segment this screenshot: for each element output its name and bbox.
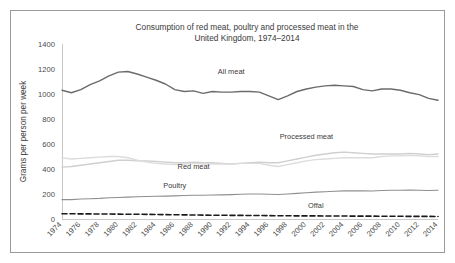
x-tick-label: 2000 — [289, 220, 307, 238]
x-tick-label: 2012 — [402, 220, 420, 238]
x-tick-label: 1986 — [158, 220, 176, 238]
x-tick-label: 1996 — [252, 220, 270, 238]
y-tick-label: 400 — [42, 165, 55, 174]
x-tick-label: 1976 — [64, 220, 82, 238]
chart-figure: Consumption of red meat, poultry and pro… — [0, 0, 455, 263]
y-tick-label: 1400 — [38, 40, 55, 49]
y-tick-label: 800 — [42, 115, 55, 124]
x-tick-label: 1998 — [271, 220, 289, 238]
y-tick-label: 600 — [42, 140, 55, 149]
x-tick-label: 1982 — [120, 220, 138, 238]
series-line-offal — [62, 214, 438, 217]
series-lines — [62, 72, 438, 217]
x-tick-label: 1994 — [233, 220, 251, 238]
series-label-offal: Offal — [308, 201, 324, 210]
series-label-all-meat: All meat — [218, 67, 245, 76]
x-tick-label: 1984 — [139, 220, 157, 238]
series-line-processed-meat — [62, 152, 438, 167]
y-axis-tick-labels: 0200400600800100012001400 — [38, 40, 55, 224]
x-tick-label: 2006 — [346, 220, 364, 238]
series-label-red-meat: Red meat — [178, 162, 210, 171]
x-tick-label: 1992 — [214, 220, 232, 238]
x-tick-label: 1980 — [101, 220, 119, 238]
series-label-poultry: Poultry — [163, 181, 186, 190]
chart-title-line2: United Kingdom, 1974–2014 — [194, 33, 300, 43]
line-chart: Consumption of red meat, poultry and pro… — [0, 0, 455, 263]
x-tick-label: 2004 — [327, 220, 345, 238]
x-tick-label: 1974 — [45, 220, 63, 238]
series-line-all-meat — [62, 72, 438, 101]
y-tick-label: 200 — [42, 190, 55, 199]
x-tick-label: 1978 — [83, 220, 101, 238]
y-axis-title: Grams per person per week — [19, 80, 28, 182]
x-tick-label: 2010 — [383, 220, 401, 238]
x-tick-label: 1990 — [195, 220, 213, 238]
y-tick-label: 1000 — [38, 90, 55, 99]
x-tick-label: 2002 — [308, 220, 326, 238]
y-tick-label: 1200 — [38, 65, 55, 74]
x-axis-tick-labels: 1974197619781980198219841986198819901992… — [45, 220, 439, 238]
x-tick-label: 1988 — [177, 220, 195, 238]
axis-lines — [62, 44, 438, 219]
x-tick-label: 2008 — [365, 220, 383, 238]
series-label-processed-meat: Processed meat — [280, 132, 333, 141]
x-tick-label: 2014 — [421, 220, 439, 238]
series-line-poultry — [62, 190, 438, 200]
chart-title-line1: Consumption of red meat, poultry and pro… — [136, 22, 359, 32]
